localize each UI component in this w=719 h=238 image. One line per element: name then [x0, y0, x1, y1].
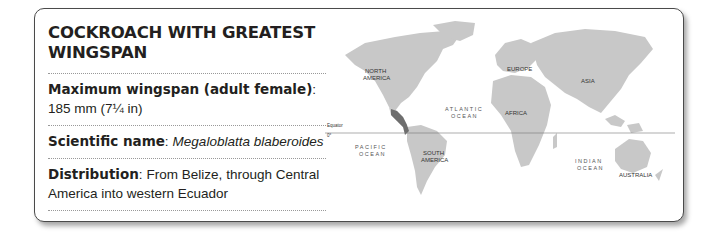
label-north-america-1: NORTH — [365, 68, 386, 74]
label-indian-2: OCEAN — [577, 165, 604, 171]
label-atlantic-1: ATLANTIC — [445, 106, 483, 112]
label-europe: EUROPE — [507, 66, 532, 72]
label-south-america-2: AMERICA — [421, 157, 448, 163]
land-masses — [345, 21, 663, 195]
world-map: Equator 0° NORTH AMERICA SOUTH AMERICA E… — [325, 15, 677, 215]
label-indian-1: INDIAN — [575, 158, 603, 164]
label-asia: ASIA — [581, 78, 595, 84]
distribution-row: Distribution: From Belize, through Centr… — [48, 159, 326, 211]
label-north-america-2: AMERICA — [363, 75, 390, 81]
wingspan-label: Maximum wingspan (adult female) — [48, 81, 312, 97]
wingspan-value: 185 mm (7¼ in) — [48, 101, 143, 116]
record-card: COCKROACH WITH GREATEST WINGSPAN Maximum… — [34, 8, 684, 222]
label-australia: AUSTRALIA — [619, 172, 652, 178]
world-map-graphic: Equator 0° NORTH AMERICA SOUTH AMERICA E… — [325, 15, 677, 215]
label-africa: AFRICA — [505, 110, 527, 116]
scientific-name-label: Scientific name — [48, 133, 165, 149]
card-title: COCKROACH WITH GREATEST WINGSPAN — [48, 23, 326, 74]
label-south-america-1: SOUTH — [423, 150, 444, 156]
scientific-name-row: Scientific name: Megaloblatta blaberoide… — [48, 126, 326, 159]
label-pacific-1: PACIFIC — [355, 144, 387, 150]
info-panel: COCKROACH WITH GREATEST WINGSPAN Maximum… — [48, 9, 326, 211]
distribution-label: Distribution — [48, 166, 139, 182]
scientific-name-value: Megaloblatta blaberoides — [173, 134, 324, 149]
label-atlantic-2: OCEAN — [451, 113, 478, 119]
distribution-range-highlight — [391, 109, 409, 135]
label-pacific-2: OCEAN — [359, 151, 386, 157]
wingspan-row: Maximum wingspan (adult female): 185 mm … — [48, 74, 326, 126]
equator-degree: 0° — [327, 133, 332, 138]
equator-label: Equator — [327, 123, 343, 128]
